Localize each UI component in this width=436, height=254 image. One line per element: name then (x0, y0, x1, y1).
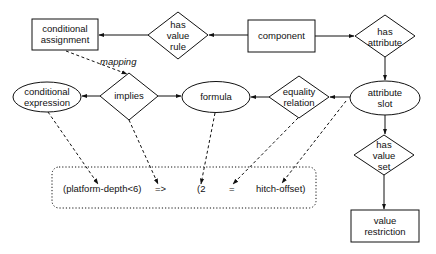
expression-part-equals: = (229, 183, 235, 194)
implies-diamond (100, 73, 158, 120)
conditional-assignment-box (32, 19, 98, 50)
edge-mapping (66, 51, 127, 74)
expression-part-formula: (2 (197, 183, 205, 194)
has-value-set-diamond (354, 135, 414, 175)
conditional-expression-ellipse (13, 82, 81, 112)
diagram-canvas: conditional assignment has value rule co… (0, 0, 436, 254)
edge-formula-to-part3 (201, 113, 215, 184)
edge-equality-relation-to-part4 (233, 118, 298, 184)
attribute-slot-ellipse (350, 81, 420, 115)
diagram-svg (0, 0, 436, 254)
edge-implies-to-part2 (129, 120, 158, 184)
equality-relation-diamond (269, 76, 329, 118)
has-value-rule-diamond (148, 12, 208, 59)
expression-part-attribute: hitch-offset) (256, 183, 305, 194)
edge-conditional-expression-to-part1 (48, 112, 98, 184)
component-box (248, 20, 315, 52)
formula-ellipse (182, 82, 250, 113)
expression-part-implies: => (155, 183, 166, 194)
value-restriction-box (351, 210, 419, 242)
expression-part-condition: (platform-depth<6) (63, 183, 141, 194)
has-attribute-diamond (355, 15, 415, 57)
